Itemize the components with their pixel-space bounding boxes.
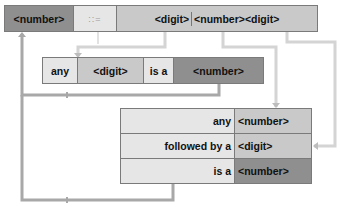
rule-rhs: <digit> <number><digit> <box>116 5 318 32</box>
rule2-row1-term: <number> <box>234 108 312 134</box>
rhs-alt-number-digit: <number><digit> <box>194 13 279 25</box>
rhs-alt-digit: <digit> <box>155 13 189 25</box>
rule1-digit: <digit> <box>77 57 144 84</box>
rule2-row3-term: <number> <box>234 158 312 184</box>
rule1-is-a: is a <box>143 57 174 84</box>
rule2-row1-label: any <box>120 108 235 134</box>
rule1-number: <number> <box>173 57 264 84</box>
rule2-row3-label: is a <box>120 158 235 184</box>
alternation-bar <box>191 12 192 26</box>
rule1-any: any <box>42 57 78 84</box>
rule2-row2-label: followed by a <box>120 133 235 159</box>
rule-lhs-number: <number> <box>4 5 74 32</box>
rule2-row2-term: <digit> <box>234 133 312 159</box>
rule-operator: ::= <box>73 5 117 32</box>
